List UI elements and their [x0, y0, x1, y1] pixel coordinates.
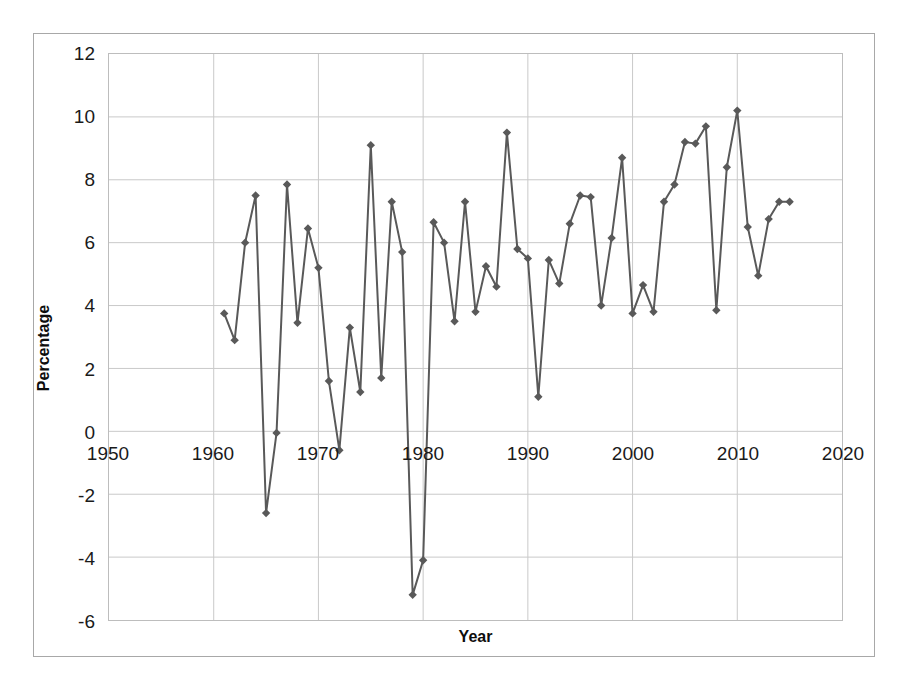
data-point-marker: [566, 220, 574, 228]
data-point-marker: [586, 193, 594, 201]
data-point-marker: [346, 323, 354, 331]
data-point-marker: [576, 191, 584, 199]
data-point-marker: [639, 281, 647, 289]
data-point-marker: [251, 191, 259, 199]
data-point-marker: [461, 198, 469, 206]
data-point-marker: [440, 238, 448, 246]
y-axis-tick-label: -4: [0, 549, 95, 568]
data-point-marker: [754, 271, 762, 279]
data-point-marker: [450, 317, 458, 325]
chart-figure: -6-4-2024681012 195019601970198019902000…: [0, 0, 908, 695]
y-axis-tick-label: 6: [0, 233, 95, 252]
data-point-marker: [628, 309, 636, 317]
x-axis-title: Year: [108, 628, 843, 646]
y-axis-tick-label: 8: [0, 170, 95, 189]
data-point-marker: [419, 556, 427, 564]
x-axis-tick-label: 2020: [798, 444, 888, 463]
x-axis-tick-label: 1980: [378, 444, 468, 463]
y-axis-tick-label: -2: [0, 486, 95, 505]
data-point-marker: [304, 224, 312, 232]
series-polyline: [224, 111, 789, 595]
data-point-marker: [377, 374, 385, 382]
data-point-marker: [314, 264, 322, 272]
data-point-marker: [597, 301, 605, 309]
y-axis-tick-label: 10: [0, 107, 95, 126]
data-point-marker: [283, 180, 291, 188]
data-point-marker: [712, 306, 720, 314]
data-point-marker: [325, 377, 333, 385]
data-point-marker: [471, 308, 479, 316]
data-point-marker: [408, 591, 416, 599]
data-point-marker: [681, 138, 689, 146]
data-point-marker: [272, 429, 280, 437]
y-axis-tick-label: -6: [0, 612, 95, 631]
data-point-marker: [388, 198, 396, 206]
data-point-marker: [744, 223, 752, 231]
plot-area: [108, 53, 843, 621]
data-point-marker: [733, 106, 741, 114]
x-axis-tick-label: 2000: [588, 444, 678, 463]
data-point-marker: [649, 308, 657, 316]
data-point-marker: [262, 509, 270, 517]
x-axis-tick-label: 1990: [483, 444, 573, 463]
data-point-marker: [607, 234, 615, 242]
data-point-marker: [429, 218, 437, 226]
y-axis-title: Percentage: [35, 304, 53, 390]
data-point-marker: [503, 128, 511, 136]
data-point-marker: [293, 319, 301, 327]
data-point-marker: [618, 154, 626, 162]
x-axis-tick-label: 1970: [273, 444, 363, 463]
data-point-marker: [785, 198, 793, 206]
data-point-marker: [367, 141, 375, 149]
y-axis-tick-label: 0: [0, 423, 95, 442]
x-axis-tick-label: 2010: [693, 444, 783, 463]
data-point-marker: [492, 283, 500, 291]
data-point-marker: [398, 248, 406, 256]
x-axis-tick-label: 1950: [63, 444, 153, 463]
data-point-marker: [356, 388, 364, 396]
data-point-marker: [545, 256, 553, 264]
data-point-marker: [220, 309, 228, 317]
x-axis-tick-label: 1960: [168, 444, 258, 463]
data-point-marker: [534, 393, 542, 401]
y-axis-tick-label: 12: [0, 44, 95, 63]
data-point-marker: [241, 238, 249, 246]
data-point-marker: [555, 279, 563, 287]
data-point-marker: [482, 262, 490, 270]
data-point-marker: [230, 336, 238, 344]
data-point-marker: [723, 163, 731, 171]
data-series-line: [109, 54, 842, 620]
